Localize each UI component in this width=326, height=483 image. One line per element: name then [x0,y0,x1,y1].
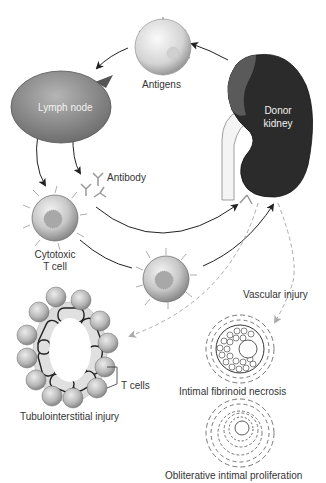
label-intimal-fibrinoid: Intimal fibrinoid necrosis [179,386,286,397]
label-cytotoxic-2: T cell [32,261,78,272]
label-donor-kidney-2: kidney [258,118,298,129]
label-cytotoxic-1: Cytotoxic [32,249,78,260]
cytotoxic-t-cell-icon [23,186,87,250]
label-vascular-injury: Vascular injury [243,289,308,300]
t-cell-icon [136,248,197,309]
label-lymph-node: Lymph node [38,102,93,113]
obliterative-intimal-proliferation-icon [206,399,274,467]
intimal-fibrinoid-necrosis-icon [206,315,274,383]
label-donor-kidney-1: Donor [258,105,298,116]
antibody-icon [81,173,106,197]
label-antigens: Antigens [142,79,181,90]
label-antibody: Antibody [107,172,146,183]
donor-kidney-icon [222,54,313,204]
label-t-cells: T cells [121,380,150,391]
label-obliterative: Obliterative intimal proliferation [165,470,302,481]
antigen-icon [135,17,191,75]
label-tubulointerstitial: Tubulointerstitial injury [20,411,119,422]
